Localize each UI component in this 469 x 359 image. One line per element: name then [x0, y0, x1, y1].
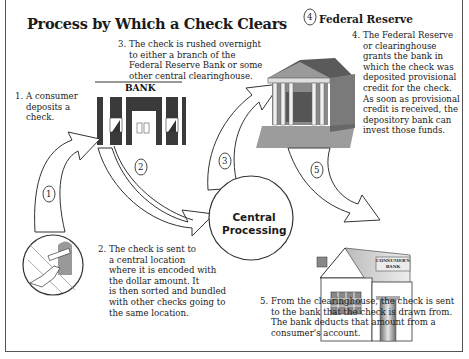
marker-2-label: 2: [138, 162, 143, 173]
arrow-step-1: [35, 132, 100, 232]
central-line-1: Central: [222, 211, 286, 224]
sign-line-2: BANK: [376, 264, 410, 270]
step-5-line: The bank deducts that amount from a: [271, 317, 454, 328]
step-2-line: is then sorted and bundled: [109, 286, 226, 297]
step-4-line: deposited provisional: [363, 72, 460, 83]
marker-5-label: 5: [314, 165, 319, 176]
step-3-line: to either a branch of the: [129, 50, 262, 61]
step-2-line: a central location: [109, 255, 226, 266]
step-5-line: From the clearinghouse, the check is sen…: [271, 296, 454, 307]
step-3-line: Federal Reserve Bank or some: [129, 60, 262, 71]
step-4-line: depository bank can: [363, 115, 460, 126]
step-4-text: 4. The Federal Reserve or clearinghouse …: [363, 30, 460, 136]
step-1-line: A consumer: [26, 91, 78, 102]
step-2-line: with other checks going to: [109, 297, 226, 308]
step-2-number: 2.: [98, 244, 106, 255]
step-2-line: the dollar amount. It: [109, 276, 226, 287]
step-3-line: other central clearinghouse.: [129, 71, 262, 82]
consumers-bank-sign: CONSUMER'S BANK: [376, 258, 410, 269]
marker-3-label: 3: [222, 156, 227, 167]
step-3-line: The check is rushed overnight: [129, 39, 262, 50]
step-1-line: deposits a: [26, 102, 78, 113]
step-2-text: 2. The check is sent to a central locati…: [109, 244, 226, 318]
step-2-line: where it is encoded with: [109, 265, 226, 276]
step-4-line: The Federal Reserve: [363, 30, 460, 41]
step-2-line: the same location.: [109, 308, 226, 319]
step-4-line: grants the bank in: [363, 51, 460, 62]
step-4-number: 4.: [352, 30, 360, 41]
step-1-line: check.: [26, 112, 78, 123]
federal-reserve-building-icon: [256, 58, 355, 148]
central-processing-label: Central Processing: [222, 211, 286, 237]
step-4-line: invest those funds.: [363, 125, 460, 136]
step-5-number: 5.: [260, 296, 268, 307]
marker-4-label: 4: [307, 12, 312, 23]
step-3-number: 3.: [118, 39, 126, 50]
central-line-2: Processing: [222, 224, 286, 237]
step-4-line: which the check was: [363, 62, 460, 73]
arrow-step-5: [288, 148, 380, 222]
consumer-deposit-icon: [23, 235, 83, 295]
bank-label: BANK: [125, 83, 156, 93]
arrow-step-2: [98, 146, 214, 236]
step-3-text: 3. The check is rushed overnight to eith…: [129, 39, 262, 81]
step-5-line: consumer's account.: [271, 328, 454, 339]
marker-1-label: 1: [46, 189, 51, 200]
sign-line-1: CONSUMER'S: [376, 258, 410, 264]
step-1-text: 1. A consumer deposits a check.: [26, 91, 78, 123]
step-4-line: As soon as provisional: [363, 94, 460, 105]
step-5-line: to the bank that the check is drawn from…: [271, 307, 454, 318]
step-5-text: 5. From the clearinghouse, the check is …: [271, 296, 454, 338]
step-4-line: or clearinghouse: [363, 41, 460, 52]
step-4-line: credit for the check.: [363, 83, 460, 94]
step-1-number: 1.: [15, 91, 23, 102]
step-4-line: credit is received, the: [363, 104, 460, 115]
step-2-line: The check is sent to: [109, 244, 226, 255]
federal-reserve-label: Federal Reserve: [319, 13, 413, 25]
